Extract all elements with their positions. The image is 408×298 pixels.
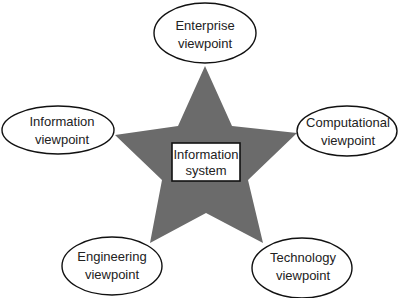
enterprise-viewpoint-node: Enterprise viewpoint xyxy=(154,3,256,63)
information-label-line1: Information xyxy=(29,114,94,129)
technology-viewpoint-node: Technology viewpoint xyxy=(252,238,352,298)
viewpoints-diagram: Enterprise viewpoint Information viewpoi… xyxy=(0,0,408,298)
enterprise-label-line2: viewpoint xyxy=(178,36,233,51)
engineering-label-line1: Engineering xyxy=(77,249,146,264)
information-viewpoint-node: Information viewpoint xyxy=(2,106,114,154)
center-label-line1: Information xyxy=(173,147,238,162)
technology-label-line2: viewpoint xyxy=(276,268,331,283)
engineering-label-line2: viewpoint xyxy=(85,267,140,282)
center-label-line2: system xyxy=(185,163,226,178)
technology-label-line1: Technology xyxy=(270,250,336,265)
engineering-viewpoint-node: Engineering viewpoint xyxy=(62,237,162,295)
computational-label-line2: viewpoint xyxy=(321,133,376,148)
information-system-node: Information system xyxy=(172,143,240,181)
information-label-line2: viewpoint xyxy=(35,132,90,147)
computational-label-line1: Computational xyxy=(306,115,390,130)
computational-viewpoint-node: Computational viewpoint xyxy=(297,106,397,156)
enterprise-label-line1: Enterprise xyxy=(175,18,234,33)
